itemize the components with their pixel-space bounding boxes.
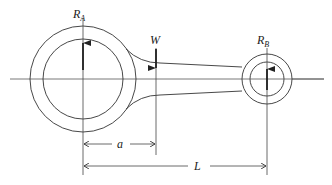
rod-top-edge: [126, 49, 242, 67]
label-reaction-b: RB: [256, 33, 269, 49]
dimension-a-label: a: [117, 137, 123, 151]
label-load-w: W: [150, 33, 161, 47]
rod-bottom-edge: [126, 91, 242, 109]
label-reaction-a: RA: [72, 7, 85, 23]
connecting-rod-diagram: RA W RB a L: [0, 0, 332, 185]
dimension-l-label: L: [193, 159, 201, 173]
